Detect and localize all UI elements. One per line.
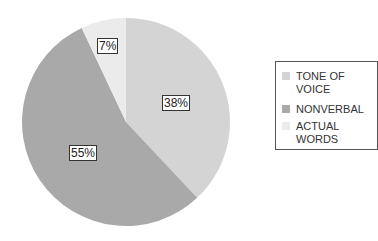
legend-label: ACTUAL WORDS	[296, 120, 339, 146]
legend-item-actual-words: ACTUAL WORDS	[282, 120, 339, 146]
legend-label: NONVERBAL	[296, 103, 364, 116]
legend: TONE OF VOICE NONVERBAL ACTUAL WORDS	[275, 61, 378, 150]
legend-item-tone-of-voice: TONE OF VOICE	[282, 70, 345, 96]
data-label-nonverbal: 55%	[69, 145, 97, 161]
legend-swatch-nonverbal	[282, 105, 290, 113]
legend-item-nonverbal: NONVERBAL	[282, 103, 364, 116]
legend-swatch-actual	[282, 122, 290, 130]
data-label-tone-of-voice: 38%	[162, 95, 190, 111]
legend-label: TONE OF VOICE	[296, 70, 345, 96]
data-label-actual-words: 7%	[97, 38, 118, 54]
legend-swatch-tone	[282, 72, 290, 80]
